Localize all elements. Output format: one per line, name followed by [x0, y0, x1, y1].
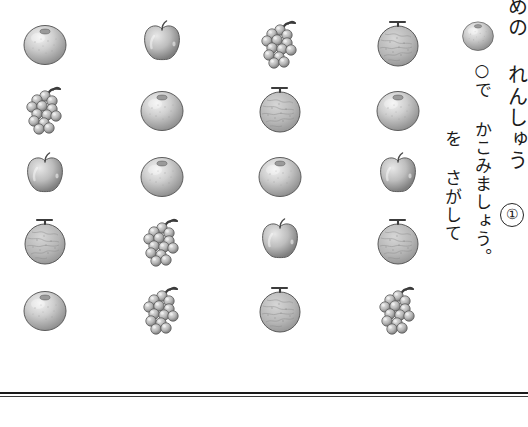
- fruit-melon-r4c1[interactable]: [15, 210, 75, 270]
- fruit-melon-r2c3[interactable]: [250, 78, 310, 138]
- fruit-grapes-r2c1[interactable]: [15, 78, 75, 138]
- footer-divider-thin: [0, 396, 528, 397]
- fruit-orange-r2c2[interactable]: [132, 78, 192, 138]
- worksheet-page: めの れんしゅう ① ○で かこみましょう。 を さがして: [0, 0, 528, 427]
- instruction-left-column: を さがして: [443, 130, 460, 370]
- fruit-orange-r2c4[interactable]: [368, 78, 428, 138]
- fruit-grid: [0, 0, 448, 380]
- fruit-melon-r4c4[interactable]: [368, 210, 428, 270]
- instruction-middle-column: ○で かこみましょう。: [473, 60, 490, 360]
- instruction-block: めの れんしゅう ① ○で かこみましょう。 を さがして: [438, 0, 528, 380]
- fruit-apple-r3c1[interactable]: [15, 144, 75, 204]
- fruit-orange-r1c1[interactable]: [15, 12, 75, 72]
- fruit-melon-r1c4[interactable]: [368, 12, 428, 72]
- sample-orange-icon: [456, 12, 500, 56]
- fruit-orange-r5c1[interactable]: [15, 278, 75, 338]
- fruit-orange-r3c3[interactable]: [250, 144, 310, 204]
- fruit-grapes-r4c2[interactable]: [132, 210, 192, 270]
- fruit-melon-r5c3[interactable]: [250, 278, 310, 338]
- fruit-orange-r3c2[interactable]: [132, 144, 192, 204]
- footer-divider-thick: [0, 392, 528, 394]
- fruit-grapes-r1c3[interactable]: [250, 12, 310, 72]
- fruit-grapes-r5c4[interactable]: [368, 278, 428, 338]
- fruit-grapes-r5c2[interactable]: [132, 278, 192, 338]
- instruction-title-column: めの れんしゅう: [506, 0, 526, 226]
- problem-number-badge: ①: [500, 203, 524, 227]
- fruit-apple-r3c4[interactable]: [368, 144, 428, 204]
- fruit-apple-r4c3[interactable]: [250, 210, 310, 270]
- fruit-apple-r1c2[interactable]: [132, 12, 192, 72]
